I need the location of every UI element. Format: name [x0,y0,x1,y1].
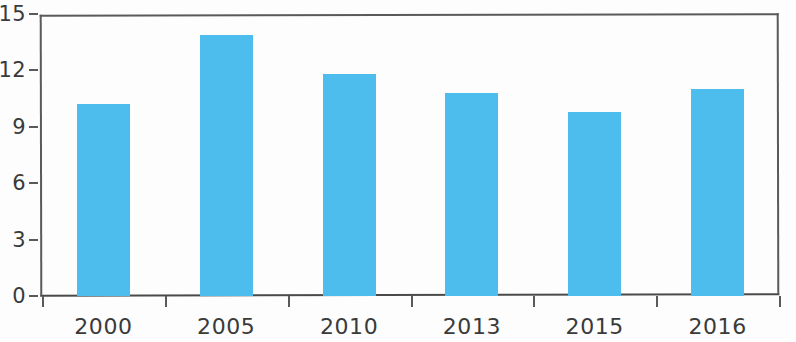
y-axis: 03691215 [0,0,40,342]
x-axis-tick-label: 2015 [566,314,624,339]
bar[interactable] [200,35,253,296]
y-axis-tick-label: 15 [0,2,26,26]
bar-slot [42,14,165,296]
x-axis-tick-mark [165,296,167,307]
bar-slot [411,14,534,296]
x-axis-tick-mark [656,296,658,307]
bar-slot [165,14,288,296]
y-axis-tick-mark [29,126,38,128]
y-axis-tick-mark [29,69,38,71]
bar[interactable] [77,104,130,296]
x-axis-tick-label: 2000 [74,314,132,339]
y-axis-tick-label: 3 [12,228,26,252]
y-axis-tick-mark [29,239,38,241]
bar-slot [533,14,656,296]
y-axis-tick-label: 9 [12,115,26,139]
x-axis-tick-label: 2005 [197,314,255,339]
bar-slot [288,14,411,296]
y-axis-tick-label: 6 [12,171,26,195]
bar[interactable] [691,89,744,296]
bar[interactable] [568,112,621,296]
x-axis-tick-mark [411,296,413,307]
bar[interactable] [445,93,498,296]
bar[interactable] [323,74,376,296]
x-axis: 200020052010201320152016 [0,296,796,342]
x-axis-tick-mark [533,296,535,307]
x-axis-tick-mark [288,296,290,307]
y-axis-tick-mark [29,13,38,15]
y-axis-tick-mark [29,182,38,184]
y-axis-tick-label: 12 [0,58,26,82]
x-axis-tick-mark [42,296,44,307]
x-axis-tick-label: 2010 [320,314,378,339]
bars-layer [42,16,779,296]
x-axis-tick-label: 2013 [443,314,501,339]
bar-chart: 03691215 200020052010201320152016 [0,0,796,342]
x-axis-tick-label: 2016 [688,314,746,339]
x-axis-tick-mark [779,296,781,307]
bar-slot [656,14,779,296]
